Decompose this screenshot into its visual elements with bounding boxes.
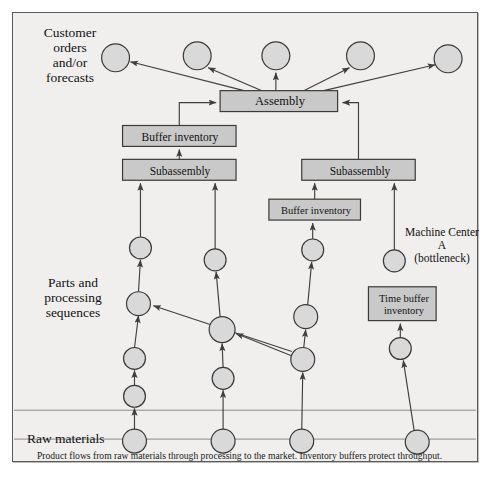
box-subassembly-left[interactable] [123, 159, 236, 180]
machine-center-label-line-0: Machine Center [405, 226, 479, 239]
node-p-c2[interactable] [294, 305, 318, 329]
node-p-a4[interactable] [124, 385, 146, 407]
node-cust-3[interactable] [262, 42, 290, 70]
machine-center-label-line-2: (bottleneck) [405, 252, 479, 265]
figure-container: Customerordersand/orforecasts Parts andp… [12, 12, 478, 462]
label-parts-processing: Parts andprocessingsequences [21, 275, 125, 320]
node-cust-2[interactable] [183, 42, 211, 70]
node-p-b1[interactable] [204, 249, 226, 271]
process-boxes [123, 91, 437, 321]
customer-label-line-2: and/or [21, 55, 119, 70]
node-cust-4[interactable] [347, 42, 375, 70]
node-p-c1[interactable] [302, 239, 324, 261]
box-buffer-left[interactable] [123, 125, 236, 146]
node-p-d2[interactable] [389, 338, 411, 360]
label-raw-materials: Raw materials [19, 431, 147, 446]
node-p-a3[interactable] [124, 348, 146, 370]
node-p-c3[interactable] [291, 348, 315, 372]
flow-arrows [131, 62, 436, 431]
figure-caption: Product flows from raw materials through… [37, 450, 457, 462]
box-time-buffer[interactable] [368, 287, 436, 321]
parts-label-line-0: Parts and [21, 275, 125, 290]
machine-center-label-line-1: A [405, 239, 479, 252]
label-machine-center-a: Machine CenterA(bottleneck) [405, 226, 479, 265]
node-p-d1[interactable] [383, 250, 405, 272]
node-p-b2[interactable] [209, 317, 235, 343]
box-buffer-right[interactable] [269, 199, 361, 220]
customer-label-line-3: forecasts [21, 70, 119, 85]
box-assembly[interactable] [220, 91, 337, 112]
label-customer-orders: Customerordersand/orforecasts [21, 25, 119, 85]
box-subassembly-right[interactable] [302, 159, 415, 180]
parts-label-line-2: sequences [21, 305, 125, 320]
node-p-b3[interactable] [212, 367, 234, 389]
node-p-a1[interactable] [130, 237, 152, 259]
node-cust-5[interactable] [434, 45, 462, 73]
customer-label-line-1: orders [21, 40, 119, 55]
node-p-a2[interactable] [127, 292, 151, 316]
parts-label-line-1: processing [21, 290, 125, 305]
customer-label-line-0: Customer [21, 25, 119, 40]
